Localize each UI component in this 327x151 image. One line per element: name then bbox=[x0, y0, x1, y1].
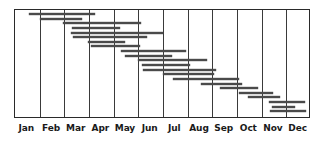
task-bar bbox=[143, 69, 216, 71]
task-bar bbox=[272, 106, 295, 108]
task-bar bbox=[71, 32, 164, 34]
month-label-dec: Dec bbox=[285, 121, 310, 135]
task-bar bbox=[63, 22, 141, 24]
gantt-chart: JanFebMarAprMayJunJulAugSepOctNovDec bbox=[0, 0, 327, 151]
task-bar bbox=[91, 45, 139, 47]
task-bar bbox=[72, 27, 120, 29]
task-bar bbox=[270, 110, 306, 112]
task-bars-layer bbox=[15, 10, 309, 117]
task-bar bbox=[173, 78, 240, 80]
month-label-jul: Jul bbox=[162, 121, 187, 135]
task-bar bbox=[138, 59, 207, 61]
task-bar bbox=[248, 96, 280, 98]
task-bar bbox=[220, 87, 258, 89]
task-bar bbox=[269, 101, 305, 103]
month-label-jan: Jan bbox=[14, 121, 39, 135]
month-axis: JanFebMarAprMayJunJulAugSepOctNovDec bbox=[14, 121, 310, 139]
month-label-aug: Aug bbox=[187, 121, 212, 135]
task-bar bbox=[73, 36, 147, 38]
task-bar bbox=[239, 92, 272, 94]
task-bar bbox=[201, 83, 242, 85]
month-label-jun: Jun bbox=[137, 121, 162, 135]
month-label-nov: Nov bbox=[261, 121, 286, 135]
task-bar bbox=[88, 41, 125, 43]
month-label-feb: Feb bbox=[39, 121, 64, 135]
task-bar bbox=[163, 73, 214, 75]
month-label-may: May bbox=[113, 121, 138, 135]
month-label-mar: Mar bbox=[63, 121, 88, 135]
month-label-apr: Apr bbox=[88, 121, 113, 135]
month-label-sep: Sep bbox=[211, 121, 236, 135]
task-bar bbox=[121, 50, 186, 52]
plot-frame bbox=[14, 9, 310, 118]
month-label-oct: Oct bbox=[236, 121, 261, 135]
task-bar bbox=[125, 55, 172, 57]
task-bar bbox=[142, 64, 190, 66]
task-bar bbox=[29, 13, 96, 15]
task-bar bbox=[40, 18, 82, 20]
